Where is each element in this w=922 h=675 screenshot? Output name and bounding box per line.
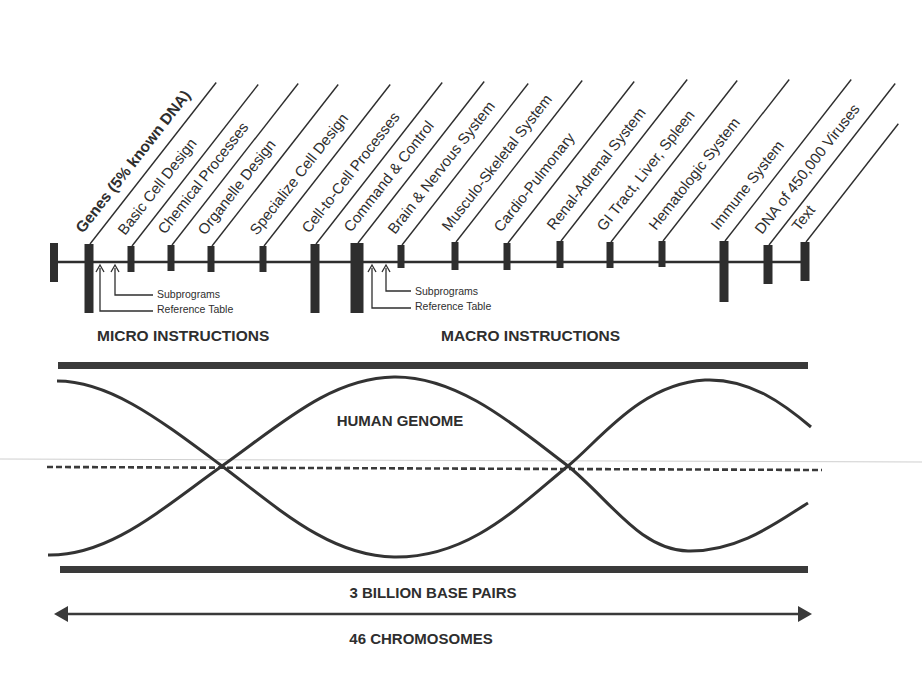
marker-bar (311, 244, 320, 313)
marker-label: GI Tract, Liver, Spleen (593, 106, 698, 233)
macro-subprograms-label: Subprograms (415, 285, 478, 297)
marker-bar (398, 245, 405, 268)
marker-bar (659, 241, 666, 267)
marker-bar (168, 245, 175, 271)
timeline-marker-hemato: Hematologic System (645, 79, 789, 267)
marker-bar (607, 242, 614, 268)
micro-subprogram-pointers: Subprograms Reference Table (96, 265, 233, 315)
marker-leader-line (172, 83, 298, 245)
marker-bar (452, 242, 459, 270)
marker-bar (128, 246, 135, 272)
genome-helix: HUMAN GENOME (0, 362, 922, 573)
timeline-marker-dna-virus: DNA of 450,000 Viruses (751, 83, 895, 284)
micro-reference-table-arrow (100, 268, 153, 311)
genome-bottom-bar (60, 566, 808, 573)
dna-strand-2 (48, 377, 808, 555)
faint-scan-line (0, 459, 922, 462)
marker-bar (208, 246, 215, 272)
macro-instructions-heading: MACRO INSTRUCTIONS (441, 327, 620, 344)
left-arrowhead-icon (54, 606, 68, 622)
timeline-marker-specialize: Specialize Cell Design (246, 84, 390, 272)
micro-instructions-heading: MICRO INSTRUCTIONS (97, 327, 269, 344)
instruction-timeline: Genes (5% known DNA)Basic Cell DesignChe… (50, 79, 898, 313)
marker-leader-line (769, 83, 895, 245)
macro-reference-table-arrow (372, 268, 411, 308)
genome-top-bar (58, 362, 808, 369)
marker-label: Text (788, 201, 819, 234)
micro-subprograms-label: Subprograms (157, 288, 220, 300)
right-arrowhead-icon (798, 606, 812, 622)
base-pairs-label: 3 BILLION BASE PAIRS (349, 584, 516, 601)
macro-reference-table-label: Reference Table (415, 300, 491, 312)
marker-bar (260, 246, 267, 272)
timeline-marker-renal: Renal-Adrenal System (543, 79, 687, 268)
human-genome-label: HUMAN GENOME (337, 412, 464, 429)
marker-bar (504, 243, 511, 270)
marker-bar (801, 242, 810, 281)
genome-center-axis (47, 467, 822, 470)
timeline-start-marker (50, 243, 58, 282)
marker-bar (85, 244, 94, 313)
marker-bar (351, 243, 364, 313)
timeline-markers: Genes (5% known DNA)Basic Cell DesignChe… (72, 79, 898, 313)
marker-leader-line (725, 79, 851, 241)
micro-subprograms-arrow (115, 268, 153, 295)
marker-leader-line (264, 84, 390, 246)
diagram-canvas: Genes (5% known DNA)Basic Cell DesignChe… (0, 0, 922, 675)
macro-subprogram-pointers: Subprograms Reference Table (368, 265, 491, 312)
marker-leader-line (358, 81, 484, 243)
chromosomes-label: 46 CHROMOSOMES (349, 630, 492, 647)
marker-bar (557, 241, 564, 268)
timeline-marker-brain: Brain & Nervous System (384, 83, 528, 268)
marker-bar (764, 245, 773, 284)
chromosome-span-arrow (54, 606, 812, 622)
marker-leader-line (316, 82, 442, 244)
timeline-marker-text: Text (788, 124, 898, 281)
marker-bar (720, 241, 729, 302)
genome-program-diagram: Genes (5% known DNA)Basic Cell DesignChe… (0, 0, 922, 675)
micro-reference-table-label: Reference Table (157, 303, 233, 315)
